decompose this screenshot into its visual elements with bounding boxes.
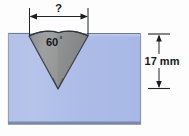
depth-label-text: 17 mm <box>145 55 180 67</box>
weld-groove-figure: 60 ° ? <box>0 0 189 136</box>
angle-degree-symbol: ° <box>60 36 63 43</box>
width-arrow-right <box>81 14 89 20</box>
width-arrow-left <box>30 14 38 20</box>
figure-canvas: 60 ° ? <box>0 0 189 136</box>
angle-value-text: 60 <box>46 36 58 48</box>
width-label-text: ? <box>55 2 62 14</box>
depth-arrow-top <box>156 35 162 42</box>
depth-arrow-bottom <box>156 81 162 88</box>
width-dimension: ? <box>30 2 89 36</box>
depth-dimension: 17 mm <box>145 34 180 89</box>
